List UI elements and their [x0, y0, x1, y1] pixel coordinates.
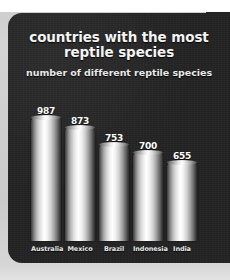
chart-card: countries with the most reptile species … [8, 13, 230, 263]
chart-plot-area: 987 873 753 700 655 [31, 101, 220, 241]
page-root: countries with the most reptile species … [0, 0, 230, 280]
bar-brazil[interactable] [99, 144, 129, 241]
category-label-australia: Australia [31, 245, 61, 253]
bar-series: 987 873 753 700 655 [31, 101, 220, 241]
bar-value-label: 987 [31, 106, 61, 116]
chart-subtitle: number of different reptile species [8, 67, 230, 78]
chart-header: countries with the most reptile species … [8, 30, 230, 78]
bar-column-indonesia: 700 [133, 101, 163, 241]
bar-column-mexico: 873 [65, 101, 95, 241]
bar-column-india: 655 [167, 101, 197, 241]
bar-mexico[interactable] [65, 127, 95, 241]
bar-value-label: 655 [167, 151, 197, 161]
bar-value-label: 700 [133, 141, 163, 151]
category-label-indonesia: Indonesia [133, 245, 163, 253]
bar-column-brazil: 753 [99, 101, 129, 241]
category-label-brazil: Brazil [99, 245, 129, 253]
bar-value-label: 753 [99, 133, 129, 143]
category-label-mexico: Mexico [65, 245, 95, 253]
bar-column-australia: 987 [31, 101, 61, 241]
chart-title: countries with the most reptile species [8, 30, 230, 60]
chart-title-line-2: reptile species [64, 44, 174, 60]
bar-india[interactable] [167, 162, 197, 241]
category-axis: Australia Mexico Brazil Indonesia India [31, 245, 220, 253]
bar-value-label: 873 [65, 116, 95, 126]
category-label-india: India [167, 245, 197, 253]
chart-title-line-1: countries with the most [29, 29, 208, 45]
bar-australia[interactable] [31, 117, 61, 241]
bar-indonesia[interactable] [133, 152, 163, 241]
